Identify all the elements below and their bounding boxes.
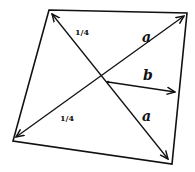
diagram-canvas — [0, 0, 195, 172]
label-upper-a: a — [142, 30, 151, 44]
label-upper-quarter: 1/4 — [75, 28, 89, 36]
label-b: b — [143, 68, 153, 82]
diagonal-arrow-bl-tr — [16, 16, 184, 137]
center-point — [107, 81, 109, 83]
label-lower-a: a — [142, 109, 151, 123]
label-lower-quarter: 1/4 — [60, 114, 74, 122]
vector-b-arrow — [108, 82, 175, 92]
